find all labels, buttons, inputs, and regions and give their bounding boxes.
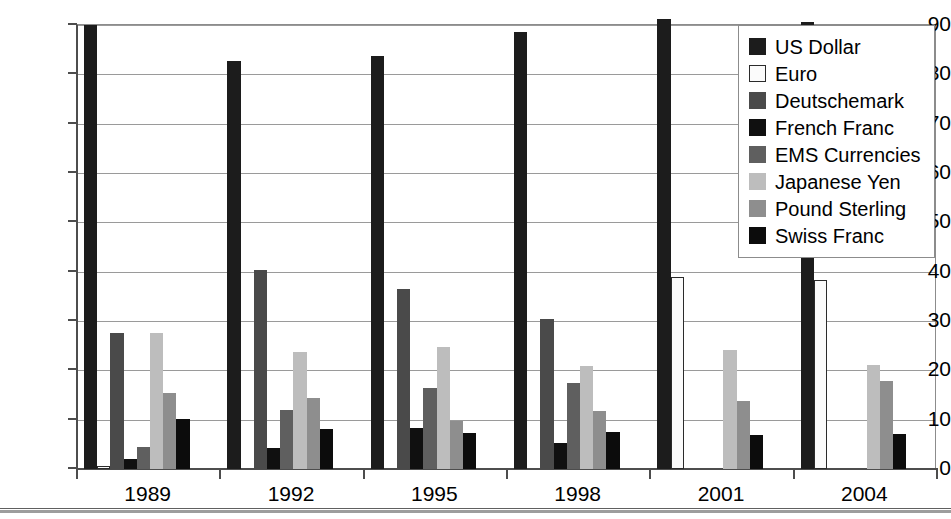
bar — [410, 428, 423, 469]
x-tick-label: 1992 — [219, 483, 362, 504]
bar — [320, 429, 333, 469]
bar — [150, 333, 163, 469]
legend-label: Euro — [775, 64, 817, 84]
bar — [814, 280, 827, 469]
legend-item[interactable]: EMS Currencies — [749, 141, 934, 168]
bar — [423, 388, 436, 469]
bar-group — [506, 24, 649, 469]
x-tick-label: 1995 — [363, 483, 506, 504]
x-tick-label: 1998 — [506, 483, 649, 504]
legend-swatch-icon — [749, 146, 766, 163]
bar — [867, 365, 880, 469]
x-tick-label: 1989 — [76, 483, 219, 504]
bar-group — [76, 24, 219, 469]
bar — [307, 398, 320, 469]
x-tick-mark — [363, 468, 365, 479]
legend-label: Swiss Franc — [775, 226, 884, 246]
bar — [463, 433, 476, 469]
footer-rule — [0, 510, 951, 513]
bar — [606, 432, 619, 469]
legend-item[interactable]: Japanese Yen — [749, 168, 934, 195]
legend-swatch-icon — [749, 65, 766, 82]
x-tick-mark — [76, 468, 78, 479]
bar — [437, 347, 450, 469]
legend-swatch-icon — [749, 227, 766, 244]
legend-label: Pound Sterling — [775, 199, 906, 219]
bar — [893, 434, 906, 469]
bar — [750, 435, 763, 469]
bar — [110, 333, 123, 469]
x-tick-mark — [936, 468, 938, 479]
bar — [737, 401, 750, 469]
legend-item[interactable]: US Dollar — [749, 33, 934, 60]
legend-item[interactable]: Pound Sterling — [749, 195, 934, 222]
bar — [540, 319, 553, 469]
legend-swatch-icon — [749, 173, 766, 190]
bar — [580, 366, 593, 469]
legend-label: EMS Currencies — [775, 145, 921, 165]
bar — [280, 410, 293, 469]
legend-swatch-icon — [749, 200, 766, 217]
legend-item[interactable]: French Franc — [749, 114, 934, 141]
bar — [227, 61, 240, 469]
bar — [176, 419, 189, 469]
bar — [514, 32, 527, 469]
bar-group — [219, 24, 362, 469]
legend-item[interactable]: Euro — [749, 60, 934, 87]
footer-rule-highlight — [0, 508, 951, 509]
bar — [97, 466, 110, 469]
bar — [450, 421, 463, 469]
bar — [554, 443, 567, 469]
legend-swatch-icon — [749, 119, 766, 136]
bar — [124, 459, 137, 469]
bar — [657, 19, 670, 469]
x-tick-mark — [506, 468, 508, 479]
legend-item[interactable]: Swiss Franc — [749, 222, 934, 249]
legend-label: Japanese Yen — [775, 172, 901, 192]
bar — [593, 411, 606, 469]
bar — [723, 350, 736, 469]
legend-swatch-icon — [749, 38, 766, 55]
legend-label: French Franc — [775, 118, 894, 138]
bar — [163, 393, 176, 469]
bar-chart: 0102030405060708090 19891992199519982001… — [0, 0, 951, 519]
bar — [371, 56, 384, 469]
bar — [84, 25, 97, 469]
legend-label: US Dollar — [775, 37, 861, 57]
x-tick-label: 2001 — [649, 483, 792, 504]
bar — [137, 447, 150, 469]
bar — [267, 448, 280, 469]
chart-legend: US DollarEuroDeutschemarkFrench FrancEMS… — [738, 25, 935, 258]
bar — [254, 270, 267, 469]
bar — [880, 381, 893, 469]
legend-swatch-icon — [749, 92, 766, 109]
legend-label: Deutschemark — [775, 91, 904, 111]
bar — [567, 383, 580, 469]
x-tick-label: 2004 — [793, 483, 936, 504]
legend-item[interactable]: Deutschemark — [749, 87, 934, 114]
x-tick-mark — [219, 468, 221, 479]
x-tick-mark — [649, 468, 651, 479]
bar-group — [363, 24, 506, 469]
x-tick-mark — [793, 468, 795, 479]
bar — [671, 277, 684, 469]
bar — [293, 352, 306, 469]
bar — [397, 289, 410, 469]
